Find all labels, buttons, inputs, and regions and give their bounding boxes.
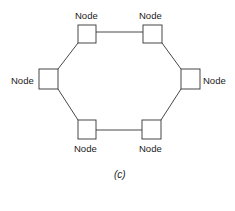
node-box-bottom-left — [78, 120, 96, 139]
node-label-bottom-left: Node — [74, 143, 97, 154]
node-box-right — [181, 69, 200, 89]
node-label-bottom-right: Node — [139, 143, 162, 154]
node-box-top-left — [78, 25, 96, 43]
link-top-left-to-left — [58, 43, 78, 69]
node-box-top-right — [143, 25, 162, 43]
link-left-to-bottom-left — [58, 89, 78, 120]
node-label-top-right: Node — [139, 10, 162, 21]
node-label-top-left: Node — [75, 10, 98, 21]
node-label-right: Node — [203, 75, 226, 86]
ring-topology-diagram: Node Node Node Node Node Node (c) — [0, 0, 235, 211]
link-right-to-bottom-right — [161, 89, 181, 120]
figure-caption: (c) — [114, 169, 126, 180]
node-box-bottom-right — [142, 120, 161, 139]
node-label-left: Node — [11, 75, 34, 86]
link-top-right-to-right — [162, 43, 181, 69]
node-box-left — [39, 69, 58, 89]
